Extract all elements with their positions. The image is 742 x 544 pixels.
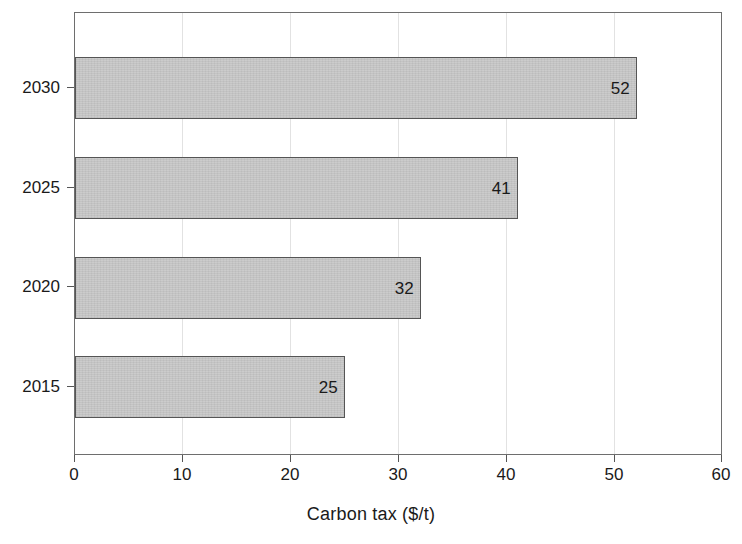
xtick-label-50: 50 — [594, 466, 634, 484]
xtick-label-60: 60 — [701, 466, 741, 484]
xtick-mark-50 — [614, 455, 615, 462]
ytick-label-2015: 2015 — [0, 378, 60, 395]
xtick-label-10: 10 — [162, 466, 202, 484]
bar-value-2015: 25 — [319, 379, 338, 396]
xtick-mark-40 — [506, 455, 507, 462]
ytick-mark-2020 — [67, 286, 74, 287]
xtick-mark-60 — [721, 455, 722, 462]
bar-2025[interactable]: 41 — [75, 157, 518, 219]
ytick-label-2025: 2025 — [0, 179, 60, 196]
xtick-label-20: 20 — [270, 466, 310, 484]
plot-area: 52 41 32 25 — [74, 12, 722, 455]
ytick-mark-2015 — [67, 386, 74, 387]
ytick-label-2020: 2020 — [0, 278, 60, 295]
ytick-mark-2030 — [67, 87, 74, 88]
ytick-label-2030: 2030 — [0, 79, 60, 96]
xtick-mark-10 — [182, 455, 183, 462]
xtick-label-0: 0 — [54, 466, 94, 484]
bar-2015[interactable]: 25 — [75, 356, 345, 418]
bar-2020[interactable]: 32 — [75, 257, 421, 319]
bar-value-2030: 52 — [611, 80, 630, 97]
bar-value-2020: 32 — [395, 280, 414, 297]
bar-value-2025: 41 — [492, 180, 511, 197]
bar-2030[interactable]: 52 — [75, 57, 637, 119]
xtick-mark-30 — [398, 455, 399, 462]
ytick-mark-2025 — [67, 187, 74, 188]
xtick-label-30: 30 — [378, 466, 418, 484]
x-axis-title: Carbon tax ($/t) — [0, 503, 742, 525]
xtick-label-40: 40 — [486, 466, 526, 484]
xtick-mark-20 — [290, 455, 291, 462]
bar-chart-figure: 52 41 32 25 2030 2025 2020 2015 0 10 20 … — [0, 0, 742, 544]
xtick-mark-0 — [74, 455, 75, 462]
